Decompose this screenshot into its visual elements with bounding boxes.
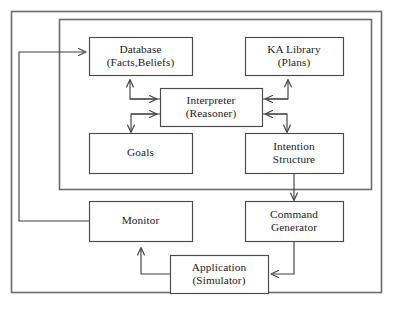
edge-interpreter-to-ka-library <box>262 80 291 100</box>
node-interpreter-rect[interactable] <box>161 89 263 127</box>
edge-intention-to-command <box>291 173 298 201</box>
edge-command-to-application <box>271 241 294 277</box>
node-application-rect[interactable] <box>171 256 269 294</box>
edge-database-to-interpreter <box>130 96 157 103</box>
node-goals-rect[interactable] <box>90 134 193 174</box>
diagram-canvas: Database (Facts,Beliefs) KA Library (Pla… <box>0 0 394 312</box>
node-ka-library-rect[interactable] <box>246 38 344 76</box>
nodes-group <box>90 38 344 294</box>
edge-application-to-monitor <box>138 248 170 275</box>
node-intention-structure-rect[interactable] <box>246 134 344 174</box>
edge-intention-to-interpreter <box>265 111 287 118</box>
node-monitor-rect[interactable] <box>90 202 193 242</box>
edge-interpreter-to-goals <box>128 114 160 133</box>
edge-monitor-to-database <box>19 49 89 221</box>
edge-ka-library-to-interpreter <box>265 96 288 103</box>
node-database-rect[interactable] <box>90 38 193 76</box>
diagram-svg <box>0 0 394 312</box>
edge-interpreter-to-intention <box>262 114 290 133</box>
edge-goals-to-interpreter <box>131 111 157 118</box>
edge-interpreter-to-database <box>127 80 160 100</box>
node-command-generator-rect[interactable] <box>246 202 344 242</box>
